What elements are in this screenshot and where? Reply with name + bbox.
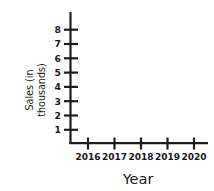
y-tick-label-2: 2 (55, 110, 61, 121)
x-axis-title: Year (122, 171, 154, 187)
y-tick-label-1: 1 (55, 124, 61, 135)
x-tick-label-2017: 2017 (102, 152, 127, 162)
line-chart-figure: 1 2 3 4 5 6 7 8 2016 2017 2018 2019 2020 (0, 0, 214, 191)
y-axis-title: Sales (in thousands) (24, 63, 47, 117)
y-axis-title-line1: Sales (in (24, 69, 35, 110)
y-axis-title-line2: thousands) (36, 63, 47, 117)
y-tick-label-3: 3 (55, 96, 61, 107)
y-axis-tick-labels: 1 2 3 4 5 6 7 8 (55, 24, 61, 135)
y-tick-label-7: 7 (55, 38, 61, 49)
y-tick-label-5: 5 (55, 67, 61, 78)
x-tick-label-2019: 2019 (155, 152, 180, 162)
y-tick-label-8: 8 (55, 24, 61, 35)
y-tick-label-6: 6 (55, 53, 61, 64)
x-tick-label-2016: 2016 (75, 152, 100, 162)
chart-canvas: 1 2 3 4 5 6 7 8 2016 2017 2018 2019 2020 (0, 0, 214, 191)
y-tick-label-4: 4 (55, 81, 61, 92)
x-axis-tick-labels: 2016 2017 2018 2019 2020 (75, 152, 206, 162)
x-tick-label-2020: 2020 (181, 152, 206, 162)
x-tick-label-2018: 2018 (128, 152, 153, 162)
